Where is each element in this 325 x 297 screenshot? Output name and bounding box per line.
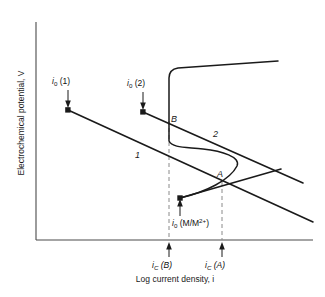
chart-canvas [0,0,325,297]
marker-i0-1 [65,107,70,112]
x-axis-title-symbol: i [212,274,214,284]
label-i0-2: i0 (2) [127,79,145,88]
label-i0-metal: i0 (M/M2+) [172,219,209,228]
marker-i0-2 [140,109,145,114]
x-axis-title: Log current density, i [36,274,314,284]
label-i0-1: i0 (1) [52,77,70,86]
label-i0-1-sub: 0 [54,80,57,87]
arrow-ic-b [166,242,172,257]
arrow-i0-2 [140,92,146,110]
label-i0-2-sub: 0 [129,82,132,89]
label-i0-2-paren: (2) [135,78,145,88]
label-curve-1: 1 [135,150,140,160]
label-point-b: B [171,114,177,124]
label-ic-a-paren: (A) [214,260,225,270]
x-axis-title-text: Log current density, [136,274,212,284]
label-i0-metal-paren-open: (M/M [180,218,199,228]
polarization-diagram: Electrochemical potential, V Log current… [0,0,325,297]
label-ic-a: iC (A) [205,261,225,270]
anodic-polarization-curve [169,61,278,198]
label-i0-1-paren: (1) [60,76,70,86]
metal-dissolution-line [180,169,281,198]
arrow-i0-1 [65,90,71,108]
cathodic-line-1 [68,110,313,222]
label-ic-b-paren: (B) [161,260,172,270]
label-i0-metal-sub: 0 [174,222,177,229]
label-ic-b: iC (B) [152,261,172,270]
label-i0-metal-sup: 2+ [199,217,206,224]
arrow-i0-metal [177,199,183,216]
label-point-a: A [217,169,223,179]
arrow-ic-a [219,242,225,257]
label-curve-2: 2 [213,129,218,139]
label-ic-a-sub: C [207,264,211,271]
label-ic-b-sub: C [154,264,158,271]
label-i0-metal-paren-close: ) [206,218,209,228]
y-axis-title: Electrochemical potential, V [16,28,26,218]
